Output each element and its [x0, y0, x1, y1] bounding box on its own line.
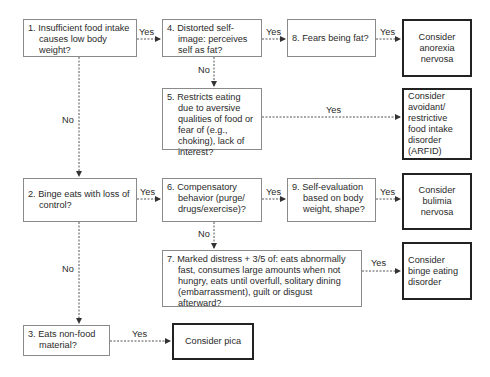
edge-label-q9-bulimia: Yes	[380, 187, 395, 197]
edge-label-q3-pica: Yes	[132, 329, 147, 339]
outcome-pica: Consider pica	[172, 323, 254, 360]
outcome-anorexia-nervosa: Consider anorexia nervosa	[402, 19, 472, 77]
edge-label-q2-q3: No	[62, 264, 74, 274]
edge-label-q1-q4: Yes	[139, 27, 154, 37]
edge-label-q2-q6: Yes	[140, 187, 155, 197]
question-4-distorted-self-image: 4. Distorted self-image: perceives self …	[162, 19, 262, 57]
edge-label-q4-q5: No	[198, 65, 210, 75]
edge-label-q7-binge: Yes	[371, 258, 386, 268]
question-3-eats-non-food: 3. Eats non-food material?	[23, 325, 110, 356]
edge-label-q6-q7: No	[198, 229, 210, 239]
edge-label-q8-anorexia: Yes	[380, 27, 395, 37]
question-5-restricts-eating: 5. Restricts eating due to aversive qual…	[162, 88, 262, 150]
question-2-binge-eats: 2. Binge eats with loss of control?	[23, 178, 137, 222]
question-1-low-body-weight: 1. Insufficient food intake causes low b…	[23, 19, 137, 57]
edge-label-q5-arfid: Yes	[326, 105, 341, 115]
question-8-fears-being-fat: 8. Fears being fat?	[287, 19, 376, 57]
outcome-bulimia-nervosa: Consider bulimia nervosa	[402, 173, 472, 230]
edge-label-q4-q8: Yes	[266, 27, 281, 37]
outcome-binge-eating-disorder: Consider binge eating disorder	[402, 242, 472, 300]
edge-label-q6-q9: Yes	[266, 187, 281, 197]
question-7-marked-distress: 7. Marked distress + 3/5 of: eats abnorm…	[162, 250, 362, 307]
question-6-compensatory-behavior: 6. Compensatory behavior (purge/ drugs/e…	[162, 178, 262, 222]
edge-label-q1-q2: No	[62, 115, 74, 125]
outcome-arfid: Consider avoidant/ restrictive food inta…	[402, 88, 472, 160]
question-9-self-evaluation: 9. Self-evaluation based on body weight,…	[287, 178, 376, 222]
